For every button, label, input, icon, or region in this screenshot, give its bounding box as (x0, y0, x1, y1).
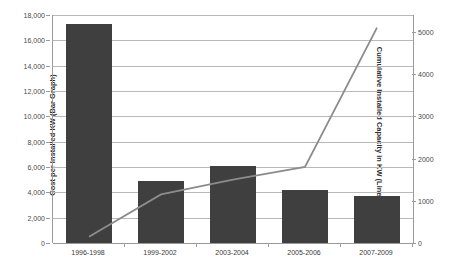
left-axis-tick-label: 4,000 (0, 189, 45, 196)
left-axis-tick-mark (46, 40, 50, 41)
x-axis-tick-mark (268, 243, 269, 247)
right-axis-tick-label: 1000 (418, 197, 452, 204)
x-axis-tick-mark (196, 243, 197, 247)
clipped-header-text (0, 0, 459, 5)
left-axis-tick-label: 18,000 (0, 12, 45, 19)
x-axis-category-label: 2005-2006 (287, 249, 320, 256)
left-axis-tick-mark (46, 218, 50, 219)
left-axis-tick-mark (46, 116, 50, 117)
right-axis-tick-label: 0 (418, 240, 452, 247)
left-axis-tick-mark (46, 167, 50, 168)
x-axis-category-label: 1999-2002 (143, 249, 176, 256)
left-axis-tick-label: 6,000 (0, 164, 45, 171)
left-axis-tick-mark (46, 142, 50, 143)
gridline (53, 243, 413, 244)
plot-area (52, 15, 414, 243)
left-axis-tick-label: 8,000 (0, 138, 45, 145)
x-axis-tick-mark (124, 243, 125, 247)
line-series (53, 15, 413, 243)
left-axis-tick-mark (46, 66, 50, 67)
left-axis-tick-mark (46, 243, 50, 244)
right-axis-tick-label: 4000 (418, 71, 452, 78)
x-axis-category-label: 2003-2004 (215, 249, 248, 256)
right-axis-tick-label: 3000 (418, 113, 452, 120)
left-axis-tick-label: 10,000 (0, 113, 45, 120)
right-axis-tick-label: 5000 (418, 28, 452, 35)
right-axis-title-wrap: Cumulative Installed Capacity in KW (Lin… (439, 0, 459, 270)
x-axis-category-label: 1996-1998 (71, 249, 104, 256)
x-axis-tick-mark (412, 243, 413, 247)
line-series-svg (53, 15, 413, 243)
combo-chart: Cost per Installed KW (Bar Graph) Cumula… (0, 0, 459, 270)
left-axis-tick-label: 16,000 (0, 37, 45, 44)
left-axis-tick-mark (46, 192, 50, 193)
left-axis-tick-label: 2,000 (0, 214, 45, 221)
left-axis-tick-mark (46, 15, 50, 16)
x-axis-tick-mark (340, 243, 341, 247)
left-axis-tick-label: 14,000 (0, 62, 45, 69)
left-axis-tick-label: 0 (0, 240, 45, 247)
left-axis-tick-mark (46, 91, 50, 92)
line-path (89, 28, 377, 237)
x-axis-category-label: 2007-2009 (359, 249, 392, 256)
left-axis-tick-label: 12,000 (0, 88, 45, 95)
right-axis-tick-label: 2000 (418, 155, 452, 162)
